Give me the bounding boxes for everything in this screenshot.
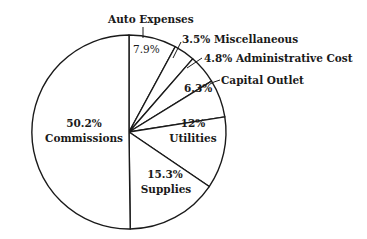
label-utilities: Utilities — [169, 132, 216, 144]
label-auto-expenses: Auto Expenses — [107, 13, 194, 25]
label-auto-expenses-pct: 7.9% — [133, 43, 160, 55]
label-administrative-cost: 4.8% Administrative Cost — [204, 52, 353, 64]
label-utilities-pct: 12% — [181, 117, 206, 129]
label-commissions: Commissions — [45, 132, 123, 144]
pie-chart: Auto Expenses 7.9% 3.5% Miscellaneous 4.… — [0, 0, 367, 239]
label-miscellaneous: 3.5% Miscellaneous — [182, 33, 298, 45]
label-supplies: Supplies — [141, 183, 192, 195]
label-capital-outlet: Capital Outlet — [221, 74, 304, 86]
label-capital-outlet-pct: 6.3% — [184, 82, 212, 94]
label-supplies-pct: 15.3% — [147, 168, 183, 180]
label-commissions-pct: 50.2% — [66, 117, 102, 129]
